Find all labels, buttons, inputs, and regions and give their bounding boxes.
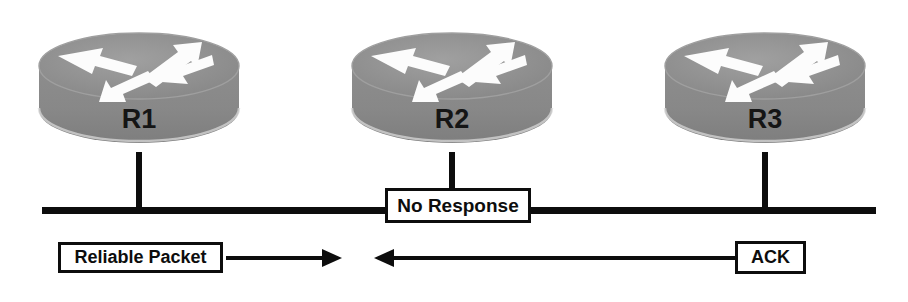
router-label-r2: R2: [349, 106, 555, 133]
label-ack: ACK: [735, 241, 806, 274]
router-label-r1: R1: [36, 106, 242, 133]
router-icon: [349, 22, 555, 156]
connector-r2: [449, 152, 455, 192]
label-no-response: No Response: [385, 188, 531, 223]
ack-arrow: [372, 247, 736, 269]
network-diagram-canvas: R1 R2: [0, 0, 908, 302]
router-icon: [36, 22, 242, 156]
router-label-r3: R3: [662, 106, 868, 133]
router-node-r2[interactable]: R2: [349, 22, 555, 156]
router-node-r3[interactable]: R3: [662, 22, 868, 156]
connector-r3: [762, 152, 768, 210]
router-icon: [662, 22, 868, 156]
connector-r1: [136, 152, 142, 210]
label-reliable-packet: Reliable Packet: [58, 242, 223, 273]
reliable-packet-arrow: [226, 247, 344, 269]
router-node-r1[interactable]: R1: [36, 22, 242, 156]
